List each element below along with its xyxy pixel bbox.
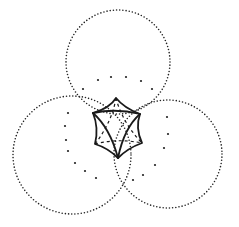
inner-dot: [142, 174, 144, 176]
central-curved-tetrahedron: [93, 98, 142, 158]
inner-dot: [67, 150, 69, 152]
inner-dot: [140, 80, 142, 82]
inner-dot: [125, 76, 127, 78]
inner-dot: [97, 79, 99, 81]
hidden-edge-left: [95, 98, 116, 144]
inner-dot-arcs: [64, 76, 169, 181]
inner-dot: [132, 179, 134, 181]
dotted-circles: [13, 10, 222, 214]
right-front-edge: [118, 114, 140, 158]
inner-dot: [167, 133, 169, 135]
diagram-canvas: [0, 0, 239, 227]
hidden-edge-bottom: [95, 141, 142, 144]
inner-dot: [163, 147, 165, 149]
inner-dot: [65, 139, 67, 141]
inner-dot: [67, 112, 69, 114]
inner-dot: [166, 116, 168, 118]
circle-bottom-right: [114, 100, 222, 208]
trefoil-diagram: [0, 0, 239, 227]
inner-dot: [82, 88, 84, 90]
inner-dot: [151, 88, 153, 90]
inner-dot: [95, 177, 97, 179]
inner-dot: [74, 162, 76, 164]
inner-dot: [64, 125, 66, 127]
outer-outline: [93, 98, 142, 158]
inner-dot: [154, 164, 156, 166]
inner-dot: [110, 76, 112, 78]
circle-top: [66, 10, 170, 114]
inner-dot: [84, 170, 86, 172]
